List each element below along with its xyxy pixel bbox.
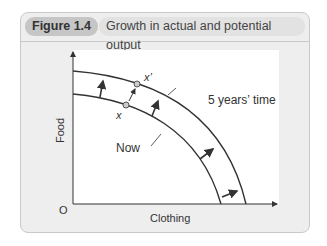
point-x-prime-label: x’ — [143, 71, 153, 83]
point-x-label: x — [115, 109, 122, 121]
curve-5-years-label: 5 years’ time — [208, 93, 276, 107]
plot-area — [73, 50, 279, 204]
y-axis-label: Food — [54, 118, 66, 143]
ppf-diagram: x x’ 5 years’ time Now Clothing O Food — [0, 0, 327, 246]
point-x-prime — [134, 81, 140, 87]
curve-now-label: Now — [116, 141, 140, 155]
point-x — [123, 102, 129, 108]
origin-label: O — [59, 204, 68, 216]
x-axis-label: Clothing — [150, 212, 190, 224]
